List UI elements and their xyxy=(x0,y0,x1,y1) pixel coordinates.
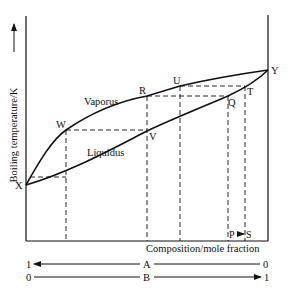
scale-B-right: 1 xyxy=(264,272,269,283)
scale-B-left: 0 xyxy=(26,272,31,283)
point-Y: Y xyxy=(271,65,279,76)
scale-A-label: A xyxy=(143,259,151,270)
point-V: V xyxy=(149,131,157,142)
vapour-label: Vaporus xyxy=(84,96,118,107)
point-X: X xyxy=(15,180,23,191)
y-axis-label-group: Boiling temperature/K xyxy=(8,87,19,182)
point-W: W xyxy=(56,119,66,130)
point-T: T xyxy=(247,86,254,97)
x-axis-label: Composition/mole fraction xyxy=(146,243,260,254)
point-U: U xyxy=(173,75,181,86)
point-P: P xyxy=(229,229,235,240)
phase-diagram: Boiling temperature/K Vaporus Liquidus X… xyxy=(0,0,288,298)
point-R: R xyxy=(139,85,146,96)
scale-B-label: B xyxy=(143,272,150,283)
point-Q: Q xyxy=(228,97,236,108)
point-S: S xyxy=(246,229,252,240)
scale-A-right: 0 xyxy=(263,259,268,270)
liquid-label: Liquidus xyxy=(87,147,124,158)
scale-A-left: 1 xyxy=(26,259,31,270)
y-axis-label: Boiling temperature/K xyxy=(8,87,19,182)
